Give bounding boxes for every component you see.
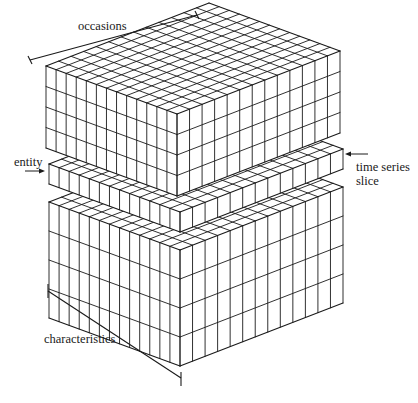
entity-label: entity (14, 155, 42, 169)
characteristics-label: characteristics (44, 332, 115, 346)
time-series-label-line1: time series (356, 160, 410, 174)
time-series-label-line2: slice (356, 174, 379, 188)
slice-arrow-icon (345, 152, 351, 157)
entity-arrow-icon (39, 169, 45, 174)
occasions-label: occasions (78, 19, 127, 33)
